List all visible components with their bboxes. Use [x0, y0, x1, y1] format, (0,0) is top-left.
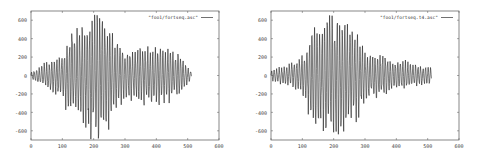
y-tick-label: -200: [255, 91, 267, 97]
y-tick-label: 200: [18, 54, 27, 60]
y-tick-label: 200: [258, 54, 267, 60]
y-tick-label: 400: [18, 36, 27, 42]
x-tick-label: 400: [152, 143, 161, 149]
y-axis-ticks: 600 400 200 0 -200 -400 -600: [255, 17, 267, 134]
y-tick-label: 400: [258, 36, 267, 42]
x-tick-label: 200: [329, 143, 338, 149]
y-tick-label: -600: [255, 128, 267, 134]
waveform-line: [271, 15, 431, 134]
x-tick-label: 0: [29, 143, 32, 149]
chart-right-svg: 600 400 200 0 -200 -400 -600 0 100 200 3…: [240, 0, 479, 157]
y-tick-label: -600: [15, 128, 27, 134]
x-axis-ticks: 0 100 200 300 400 500 600: [269, 143, 463, 149]
legend: "foo1/fortseq.t4.asc": [380, 15, 453, 20]
x-tick-label: 400: [392, 143, 401, 149]
y-tick-label: -200: [15, 91, 27, 97]
x-tick-label: 100: [298, 143, 307, 149]
x-tick-label: 300: [360, 143, 369, 149]
x-tick-label: 500: [423, 143, 432, 149]
chart-right: 600 400 200 0 -200 -400 -600 0 100 200 3…: [240, 0, 479, 157]
x-tick-label: 200: [89, 143, 98, 149]
chart-left-svg: 600 400 200 0 -200 -400 -600 0 100 200 3…: [0, 0, 240, 157]
tick-marks: [31, 11, 219, 140]
chart-left: 600 400 200 0 -200 -400 -600 0 100 200 3…: [0, 0, 240, 157]
plot-frame: [271, 11, 459, 140]
x-tick-label: 0: [269, 143, 272, 149]
waveform-line: [31, 15, 191, 139]
x-tick-label: 100: [58, 143, 67, 149]
tick-marks: [271, 11, 459, 140]
y-tick-label: 0: [264, 73, 267, 79]
y-tick-label: 600: [258, 17, 267, 23]
x-tick-label: 300: [120, 143, 129, 149]
y-tick-label: 0: [24, 73, 27, 79]
plot-frame: [31, 11, 219, 140]
x-tick-label: 600: [214, 143, 223, 149]
x-axis-ticks: 0 100 200 300 400 500 600: [29, 143, 223, 149]
y-tick-label: -400: [15, 110, 27, 116]
x-tick-label: 600: [454, 143, 463, 149]
y-axis-ticks: 600 400 200 0 -200 -400 -600: [15, 17, 27, 134]
legend-label: "foo1/fortseq.asc": [148, 15, 198, 20]
legend: "foo1/fortseq.asc": [148, 15, 213, 20]
y-tick-label: 600: [18, 17, 27, 23]
x-tick-label: 500: [183, 143, 192, 149]
legend-label: "foo1/fortseq.t4.asc": [380, 15, 438, 20]
y-tick-label: -400: [255, 110, 267, 116]
